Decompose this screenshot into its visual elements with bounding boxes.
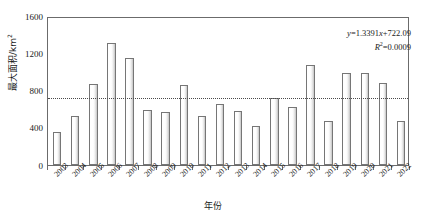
y-tick-label: 800	[30, 87, 44, 96]
bar	[342, 73, 351, 165]
equation-body: =1.3391	[351, 28, 379, 38]
trendline	[48, 98, 408, 99]
bar	[306, 65, 315, 165]
x-axis-title: 年份	[0, 199, 425, 212]
y-axis-title-text: 最大面积/km	[8, 38, 18, 91]
bar	[270, 98, 279, 165]
regression-r-squared: R2=0.0009	[347, 39, 411, 53]
bar	[216, 104, 225, 165]
bar	[288, 107, 297, 165]
bar	[234, 111, 243, 165]
y-axis-title-superscript: 2	[6, 34, 13, 38]
bar	[198, 116, 207, 165]
bar	[53, 132, 62, 165]
bar	[89, 84, 98, 165]
y-tick-label: 0	[39, 162, 44, 171]
equation-tail: +722.09	[383, 28, 411, 38]
bar	[143, 110, 152, 165]
bar	[324, 121, 333, 165]
bar	[71, 116, 80, 165]
bar	[397, 121, 406, 165]
y-tick-label: 400	[30, 124, 44, 133]
bar	[125, 58, 134, 165]
bar	[379, 83, 388, 165]
y-tick-label: 1200	[25, 50, 43, 59]
bar	[161, 112, 170, 165]
bar	[361, 73, 370, 165]
bar	[107, 43, 116, 165]
regression-annotation: y=1.3391x+722.09 R2=0.0009	[347, 28, 411, 53]
y-axis-title: 最大面积/km2	[5, 8, 18, 118]
r2-value: =0.0009	[383, 42, 411, 52]
y-tick-label: 1600	[25, 13, 43, 22]
bar	[180, 85, 189, 165]
x-tick-mark	[47, 166, 48, 170]
bar	[252, 126, 261, 165]
regression-equation: y=1.3391x+722.09	[347, 28, 411, 39]
bar-chart: 040080012001600 最大面积/km2 200320042005200…	[0, 0, 425, 220]
